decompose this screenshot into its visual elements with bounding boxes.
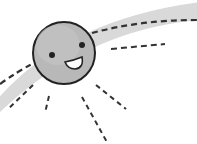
left-eye <box>49 52 55 58</box>
sun-rays <box>7 85 126 144</box>
dashed-line-right <box>111 44 165 49</box>
sun-illustration <box>0 0 197 144</box>
right-eye <box>79 42 85 48</box>
sun-face-icon <box>33 22 95 84</box>
arc-path-band <box>0 2 197 122</box>
